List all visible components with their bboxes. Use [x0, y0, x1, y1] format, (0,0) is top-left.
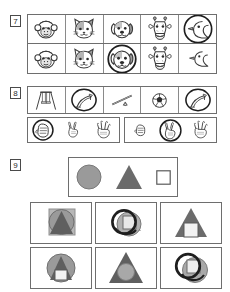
q7-r1-c2[interactable]	[66, 15, 104, 43]
monkey-face-icon	[33, 46, 59, 72]
option-2-shapes	[103, 204, 149, 242]
dog-face-icon	[107, 44, 137, 73]
fist-hand-icon	[32, 119, 54, 141]
open-hand-icon	[94, 120, 113, 140]
q8-r1-c1[interactable]	[28, 87, 66, 113]
q7-r2-c3[interactable]	[104, 44, 142, 73]
goose-icon	[183, 15, 213, 43]
swing-set-icon	[34, 89, 58, 111]
question-number-7: 7	[10, 15, 21, 27]
option-6[interactable]	[160, 247, 222, 289]
q7-r1-c4[interactable]	[141, 15, 179, 43]
question-7-sample-row	[28, 15, 216, 44]
option-3[interactable]	[160, 202, 222, 244]
shape-prompt	[68, 157, 178, 197]
q8-r1-c3[interactable]	[104, 87, 142, 113]
two-fingers-hand-icon	[65, 120, 82, 140]
hand-group-left	[27, 117, 120, 143]
q8-r1-c4[interactable]	[141, 87, 179, 113]
q7-r2-c2[interactable]	[66, 44, 104, 73]
cat-face-icon	[71, 16, 97, 42]
q8-hl-c1[interactable]	[28, 118, 58, 142]
triangle-shape	[115, 164, 143, 190]
open-hand-icon	[191, 120, 210, 140]
fist-hand-icon	[132, 121, 149, 139]
goose-icon	[185, 46, 211, 72]
option-5-shapes	[105, 249, 147, 287]
slide-icon	[185, 88, 211, 112]
option-3-shapes	[170, 204, 212, 242]
two-fingers-hand-icon	[159, 119, 182, 142]
option-2[interactable]	[95, 202, 157, 244]
option-4-shapes	[40, 249, 82, 287]
q7-r2-c5[interactable]	[179, 44, 216, 73]
dog-face-icon	[109, 16, 135, 42]
cat-face-icon	[71, 46, 97, 72]
q8-hl-c3[interactable]	[89, 118, 119, 142]
q8-hr-c3[interactable]	[186, 118, 216, 142]
giraffe-face-icon	[147, 16, 173, 42]
circle-shape	[76, 164, 102, 190]
option-1[interactable]	[30, 202, 92, 244]
q7-r1-c3[interactable]	[104, 15, 142, 43]
q7-r1-c5[interactable]	[179, 15, 216, 43]
q7-r2-c1[interactable]	[28, 44, 66, 73]
question-7-answer-row	[28, 44, 216, 73]
q8-hr-c1[interactable]	[125, 118, 155, 142]
hand-group-right	[124, 117, 217, 143]
seesaw-icon	[109, 90, 135, 110]
question-number-9: 9	[10, 159, 21, 171]
question-8-hand-groups	[27, 117, 217, 143]
q8-hr-c2[interactable]	[155, 118, 185, 142]
option-5[interactable]	[95, 247, 157, 289]
option-4[interactable]	[30, 247, 92, 289]
q7-r2-c4[interactable]	[141, 44, 179, 73]
worksheet-page: 7	[0, 0, 230, 292]
slide-icon	[71, 88, 97, 112]
giraffe-face-icon	[147, 46, 173, 72]
option-6-shapes	[168, 249, 214, 287]
soccer-ball-icon	[151, 92, 168, 109]
q7-r1-c1[interactable]	[28, 15, 66, 43]
q8-r1-c5[interactable]	[179, 87, 216, 113]
question-number-8: 8	[10, 87, 21, 99]
monkey-face-icon	[33, 16, 59, 42]
square-shape	[156, 170, 171, 185]
option-1-shapes	[40, 204, 82, 242]
q8-hl-c2[interactable]	[58, 118, 88, 142]
q8-r1-c2[interactable]	[66, 87, 104, 113]
question-8-playground-row	[27, 86, 217, 114]
question-7-grid	[27, 14, 217, 74]
